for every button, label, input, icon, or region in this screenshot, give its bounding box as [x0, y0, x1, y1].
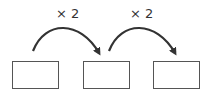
box-1[interactable] — [12, 61, 59, 89]
arrow-1 — [33, 28, 99, 53]
arrow-1-label: × 2 — [56, 6, 79, 21]
arrow-2 — [109, 28, 175, 53]
box-2[interactable] — [83, 61, 130, 89]
box-3[interactable] — [153, 61, 200, 89]
arrow-2-label: × 2 — [130, 6, 153, 21]
